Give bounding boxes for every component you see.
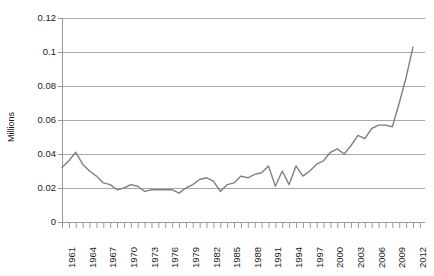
x-axis-tick-label: 2003 [355, 247, 366, 268]
x-axis-tick-label: 1967 [107, 247, 118, 268]
y-axis-tick-label: 0.02 [6, 182, 56, 193]
y-axis-tick-label: 0.06 [6, 114, 56, 125]
x-axis-tick-label: 1979 [190, 247, 201, 268]
x-axis-tick-label: 1991 [272, 247, 283, 268]
x-axis-tick-label: 1997 [314, 247, 325, 268]
x-axis-tick-label: 2009 [396, 247, 407, 268]
x-axis-tick-label: 1985 [231, 247, 242, 268]
chart-container: Millions 0.120.10.080.060.040.0201961196… [0, 0, 434, 276]
x-axis-tick-label: 1994 [293, 247, 304, 268]
y-axis-tick-label: 0.1 [6, 46, 56, 57]
y-axis-tick-label: 0.04 [6, 148, 56, 159]
y-axis-tick-label: 0 [6, 216, 56, 227]
x-axis-tick-label: 1973 [149, 247, 160, 268]
x-axis-tick-label: 1964 [87, 247, 98, 268]
x-axis-tick-label: 1970 [128, 247, 139, 268]
x-axis-tick-label: 1976 [169, 247, 180, 268]
x-axis-tick-label: 2006 [376, 247, 387, 268]
x-axis-tick-label: 2000 [334, 247, 345, 268]
y-axis-tick-label: 0.08 [6, 80, 56, 91]
y-axis-tick-label: 0.12 [6, 12, 56, 23]
x-axis-tick-label: 1988 [252, 247, 263, 268]
line-chart-plot [0, 0, 434, 276]
x-axis-tick-label: 2012 [417, 247, 428, 268]
x-axis-tick-label: 1982 [211, 247, 222, 268]
x-axis-tick-label: 1961 [66, 247, 77, 268]
